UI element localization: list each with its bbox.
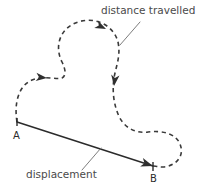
arrow-head-icon-displacement-tip	[140, 158, 154, 170]
arrow-head-icon-left-lobe	[36, 73, 48, 83]
displacement-leader-line	[82, 148, 101, 170]
displacement-label: displacement	[26, 168, 97, 180]
point-b-label: B	[150, 173, 157, 184]
distance-travelled-label: distance travelled	[101, 4, 195, 16]
distance-travelled-path	[16, 20, 181, 167]
point-a-label: A	[13, 130, 20, 141]
physics-diagram: distance travelled displacement A B	[0, 0, 199, 188]
diagram-canvas: distance travelled displacement A B	[0, 0, 199, 188]
arrow-head-icon-top-lobe	[94, 20, 108, 32]
displacement-vector-line	[17, 122, 153, 166]
distance-travelled-leader-line	[120, 22, 140, 45]
